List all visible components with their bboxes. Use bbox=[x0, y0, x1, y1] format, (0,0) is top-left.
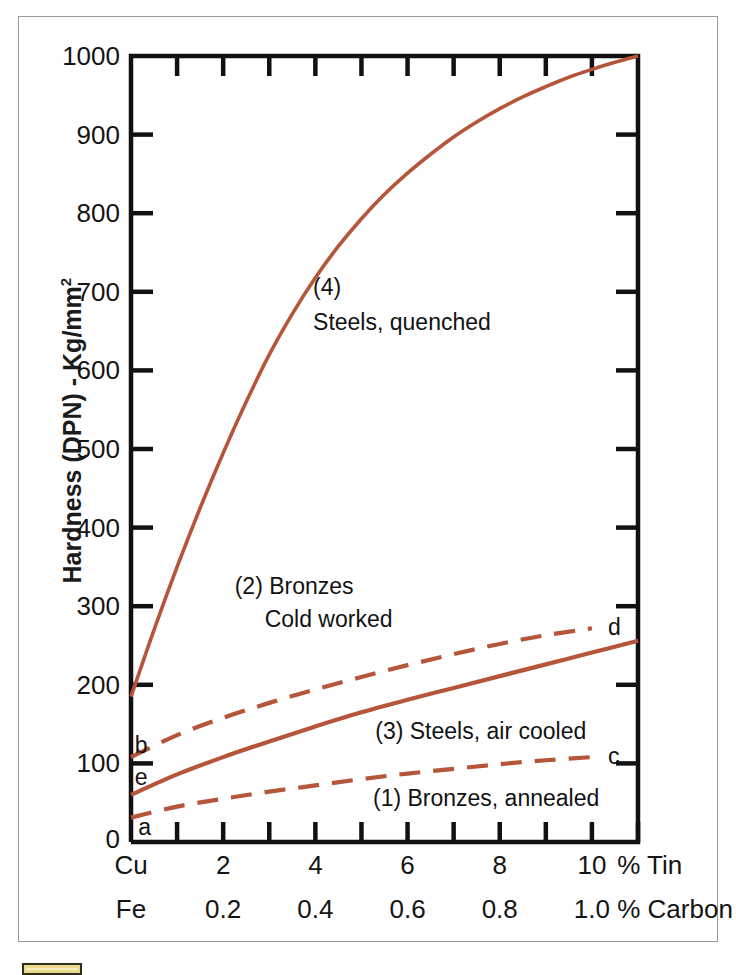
point-b: b bbox=[135, 734, 148, 757]
point-a: a bbox=[138, 816, 151, 839]
point-c: c bbox=[608, 745, 620, 768]
caption-color-chip bbox=[22, 963, 82, 975]
point-e: e bbox=[135, 766, 148, 789]
caption-color-chip-inner bbox=[26, 968, 78, 970]
note-1-text: (1) Bronzes, annealed bbox=[373, 787, 599, 810]
curves-layer bbox=[131, 56, 638, 818]
series-curve bbox=[131, 56, 638, 697]
point-d: d bbox=[608, 616, 621, 639]
note-2-number: (2) Bronzes bbox=[235, 575, 354, 598]
note-4-number: (4) bbox=[313, 276, 341, 299]
note-4-text: Steels, quenched bbox=[313, 311, 491, 334]
note-2-text: Cold worked bbox=[265, 608, 393, 631]
note-3-text: (3) Steels, air cooled bbox=[375, 720, 586, 743]
